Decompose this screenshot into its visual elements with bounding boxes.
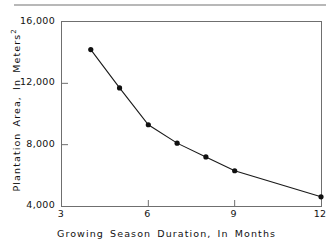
data-point	[175, 141, 180, 146]
y-axis-title-text: Plantation Area, In Meters	[11, 34, 22, 192]
y-tick-label: 8,000	[26, 139, 55, 149]
data-point	[318, 194, 323, 199]
y-axis-title-superscript: 2	[10, 29, 18, 33]
top-divider-rule	[14, 4, 326, 6]
y-tick-label: 12,000	[20, 78, 55, 88]
data-point	[88, 47, 93, 52]
x-axis-title: Growing Season Duration, In Months	[0, 229, 333, 239]
y-tick-label: 16,000	[20, 16, 55, 26]
series-markers	[88, 47, 323, 199]
data-point	[203, 154, 208, 159]
axis-tick-marks	[62, 83, 235, 206]
data-series-svg	[62, 22, 321, 206]
data-point	[232, 168, 237, 173]
plot-area	[61, 21, 322, 207]
x-tick-label: 3	[58, 209, 64, 219]
y-axis-title: Plantation Area, In Meters2	[11, 10, 22, 210]
data-point	[146, 122, 151, 127]
x-tick-label: 12	[314, 209, 327, 219]
x-axis-tick-labels: 36912	[0, 209, 333, 223]
x-tick-label: 9	[230, 209, 236, 219]
x-tick-label: 6	[144, 209, 150, 219]
series-line	[91, 50, 321, 197]
data-point	[117, 85, 122, 90]
chart-figure: 4,0008,00012,00016,000 36912 Growing Sea…	[0, 0, 333, 250]
